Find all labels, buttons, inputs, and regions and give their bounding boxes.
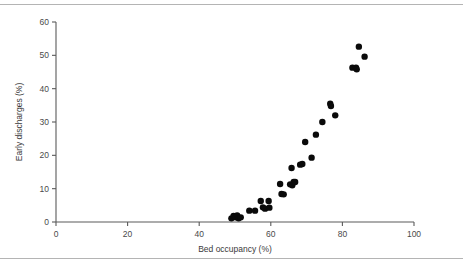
scatter-point	[299, 161, 305, 167]
scatter-point	[238, 214, 244, 220]
scatter-point	[280, 191, 286, 197]
scatter-point	[356, 43, 362, 49]
y-tick-label: 50	[40, 50, 50, 60]
y-tick-label: 0	[44, 217, 49, 227]
y-axis: 0102030405060	[40, 17, 56, 227]
scatter-point	[302, 139, 308, 145]
x-tick-label: 100	[407, 229, 421, 239]
scatter-point	[332, 112, 338, 118]
scatter-point	[266, 204, 272, 210]
scatter-point	[288, 165, 294, 171]
scatter-point	[319, 119, 325, 125]
y-tick-label: 10	[40, 184, 50, 194]
data-points-layer	[228, 43, 368, 221]
scatter-point	[361, 53, 367, 59]
y-tick-label: 40	[40, 84, 50, 94]
scatter-point	[258, 198, 264, 204]
x-axis-title: Bed occupancy (%)	[198, 244, 272, 254]
scatter-point	[252, 207, 258, 213]
x-axis: 020406080100	[54, 222, 422, 239]
x-tick-label: 20	[123, 229, 133, 239]
scatter-point	[313, 131, 319, 137]
x-tick-label: 60	[266, 229, 276, 239]
scatter-point	[354, 66, 360, 72]
scatter-point	[292, 179, 298, 185]
x-tick-label: 80	[338, 229, 348, 239]
y-tick-label: 20	[40, 150, 50, 160]
figure-container: 0102030405060 020406080100 Bed occupancy…	[0, 0, 463, 271]
y-axis-title: Early discharges (%)	[14, 83, 24, 162]
x-tick-label: 40	[194, 229, 204, 239]
scatter-point	[328, 103, 334, 109]
scatter-point	[277, 181, 283, 187]
scatter-point	[246, 207, 252, 213]
scatter-point	[308, 154, 314, 160]
scatter-point	[265, 198, 271, 204]
scatter-plot: 0102030405060 020406080100 Bed occupancy…	[0, 0, 463, 271]
x-tick-label: 0	[54, 229, 59, 239]
y-tick-label: 30	[40, 117, 50, 127]
y-tick-label: 60	[40, 17, 50, 27]
